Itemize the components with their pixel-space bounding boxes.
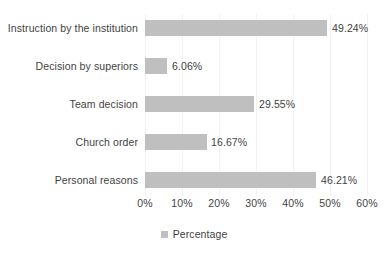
bar-value-label: 6.06% — [172, 60, 202, 72]
bar-row: 6.06% — [145, 58, 367, 74]
x-tick-label: 40% — [282, 197, 303, 209]
bar-value-label: 49.24% — [332, 22, 368, 34]
gridline — [367, 14, 368, 196]
bar-row: 49.24% — [145, 20, 367, 36]
bar[interactable] — [145, 96, 254, 112]
category-label: Team decision — [70, 96, 138, 112]
legend-label: Percentage — [173, 228, 228, 240]
category-label: Church order — [76, 134, 138, 150]
category-label: Decision by superiors — [36, 58, 138, 74]
category-label: Personal reasons — [55, 172, 138, 188]
x-tick-label: 50% — [319, 197, 340, 209]
bar-series: 49.24% 6.06% 29.55% 16.67% 46.21% — [145, 14, 367, 196]
plot-area: 49.24% 6.06% 29.55% 16.67% 46.21% — [145, 14, 367, 196]
x-tick-label: 0% — [137, 197, 152, 209]
x-tick-label: 20% — [208, 197, 229, 209]
category-axis: Instruction by the institution Decision … — [0, 14, 138, 196]
bar-value-label: 16.67% — [211, 136, 247, 148]
bar[interactable] — [145, 134, 207, 150]
bar[interactable] — [145, 20, 327, 36]
bar-chart: Instruction by the institution Decision … — [0, 0, 388, 255]
legend-swatch-icon — [161, 231, 168, 238]
bar[interactable] — [145, 172, 316, 188]
bar[interactable] — [145, 58, 167, 74]
bar-value-label: 46.21% — [321, 174, 357, 186]
bar-row: 29.55% — [145, 96, 367, 112]
bar-row: 46.21% — [145, 172, 367, 188]
x-tick-label: 60% — [356, 197, 377, 209]
category-label: Instruction by the institution — [8, 20, 138, 36]
bar-value-label: 29.55% — [259, 98, 295, 110]
x-tick-label: 30% — [245, 197, 266, 209]
bar-row: 16.67% — [145, 134, 367, 150]
chart-legend: Percentage — [0, 228, 388, 240]
x-axis: 0% 10% 20% 30% 40% 50% 60% — [145, 197, 367, 213]
x-tick-label: 10% — [171, 197, 192, 209]
